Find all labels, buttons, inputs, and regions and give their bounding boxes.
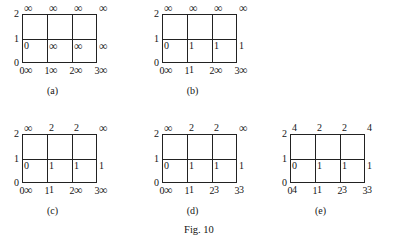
node-value: 1 bbox=[189, 41, 194, 51]
y-tick-label: 1 bbox=[147, 154, 159, 164]
y-tick-label: 1 bbox=[7, 34, 19, 44]
y-tick-label: 0 bbox=[147, 178, 159, 188]
node-value: 0 bbox=[164, 161, 169, 171]
x-tick-label: 2 bbox=[334, 186, 346, 196]
node-value: 1 bbox=[214, 161, 219, 171]
grid-d: ∞22∞0111∞133 bbox=[162, 134, 237, 183]
y-tick-label: 1 bbox=[7, 154, 19, 164]
x-tick-label: 1 bbox=[309, 186, 321, 196]
node-value: 2 bbox=[342, 123, 347, 133]
node-value: ∞ bbox=[24, 3, 32, 13]
panel-caption-b: (b) bbox=[140, 85, 245, 96]
panel-caption-e: (e) bbox=[268, 205, 373, 216]
grid-b: ∞∞∞∞0111∞1∞∞ bbox=[162, 14, 237, 63]
node-value: 1 bbox=[99, 161, 104, 171]
node-value: ∞ bbox=[239, 123, 247, 133]
panel-caption-a: (a) bbox=[0, 85, 105, 96]
node-value: 0 bbox=[164, 41, 169, 51]
node-value: 4 bbox=[367, 123, 372, 133]
figure-caption: Fig. 10 bbox=[0, 224, 398, 235]
grid-hline bbox=[162, 39, 237, 40]
x-tick-label: 2 bbox=[66, 186, 78, 196]
grid-hline bbox=[22, 39, 97, 40]
node-value: 1 bbox=[367, 161, 372, 171]
node-value: 1 bbox=[49, 161, 54, 171]
node-value: ∞ bbox=[239, 3, 247, 13]
panel-a: ∞∞∞∞0∞∞∞∞∞∞∞0123210(a) bbox=[0, 2, 130, 117]
node-value: 2 bbox=[317, 123, 322, 133]
grid-a: ∞∞∞∞0∞∞∞∞∞∞∞ bbox=[22, 14, 97, 63]
grid-c: ∞22∞0111∞1∞∞ bbox=[22, 134, 97, 183]
x-tick-label: 1 bbox=[41, 66, 53, 76]
y-tick-label: 2 bbox=[275, 129, 287, 139]
node-value: 1 bbox=[317, 161, 322, 171]
x-tick-label: 3 bbox=[91, 66, 103, 76]
x-tick-label: 1 bbox=[41, 186, 53, 196]
y-tick-label: 2 bbox=[7, 129, 19, 139]
grid-hline bbox=[290, 159, 365, 160]
x-tick-label: 3 bbox=[359, 186, 371, 196]
node-value: ∞ bbox=[99, 3, 107, 13]
x-tick-label: 3 bbox=[231, 66, 243, 76]
panel-caption-c: (c) bbox=[0, 205, 105, 216]
x-tick-label: 1 bbox=[181, 186, 193, 196]
node-value: 2 bbox=[49, 123, 54, 133]
node-value: ∞ bbox=[164, 3, 172, 13]
figure-10: ∞∞∞∞0∞∞∞∞∞∞∞0123210(a)∞∞∞∞0111∞1∞∞012321… bbox=[0, 0, 398, 241]
node-value: 2 bbox=[74, 123, 79, 133]
node-value: 0 bbox=[24, 41, 29, 51]
panel-e: 4224011141330123210(e) bbox=[268, 122, 398, 237]
x-tick-label: 1 bbox=[181, 66, 193, 76]
node-value: ∞ bbox=[24, 123, 32, 133]
y-tick-label: 2 bbox=[147, 9, 159, 19]
node-value: 1 bbox=[189, 161, 194, 171]
node-value: 0 bbox=[292, 161, 297, 171]
node-value: 4 bbox=[292, 123, 297, 133]
node-value: ∞ bbox=[164, 123, 172, 133]
node-value: ∞ bbox=[74, 3, 82, 13]
panel-d: ∞22∞0111∞1330123210(d) bbox=[140, 122, 270, 237]
node-value: 2 bbox=[214, 123, 219, 133]
node-value: ∞ bbox=[99, 41, 107, 51]
x-tick-label: 2 bbox=[206, 66, 218, 76]
y-tick-label: 1 bbox=[275, 154, 287, 164]
panel-caption-d: (d) bbox=[140, 205, 245, 216]
y-tick-label: 0 bbox=[147, 58, 159, 68]
node-value: 1 bbox=[342, 161, 347, 171]
x-tick-label: 3 bbox=[91, 186, 103, 196]
node-value: 2 bbox=[189, 123, 194, 133]
y-tick-label: 0 bbox=[275, 178, 287, 188]
grid-e: 422401114133 bbox=[290, 134, 365, 183]
node-value: ∞ bbox=[189, 3, 197, 13]
node-value: 0 bbox=[24, 161, 29, 171]
node-value: ∞ bbox=[214, 3, 222, 13]
y-tick-label: 2 bbox=[7, 9, 19, 19]
y-tick-label: 0 bbox=[7, 178, 19, 188]
x-tick-label: 2 bbox=[206, 186, 218, 196]
y-tick-label: 0 bbox=[7, 58, 19, 68]
node-value: 1 bbox=[239, 161, 244, 171]
node-value: ∞ bbox=[74, 41, 82, 51]
panel-c: ∞22∞0111∞1∞∞0123210(c) bbox=[0, 122, 130, 237]
y-tick-label: 1 bbox=[147, 34, 159, 44]
grid-hline bbox=[162, 159, 237, 160]
node-value: ∞ bbox=[49, 3, 57, 13]
node-value: ∞ bbox=[99, 123, 107, 133]
y-tick-label: 2 bbox=[147, 129, 159, 139]
grid-hline bbox=[22, 159, 97, 160]
node-value: ∞ bbox=[49, 41, 57, 51]
node-value: 1 bbox=[214, 41, 219, 51]
x-tick-label: 3 bbox=[231, 186, 243, 196]
node-value: 1 bbox=[239, 41, 244, 51]
panel-b: ∞∞∞∞0111∞1∞∞0123210(b) bbox=[140, 2, 270, 117]
x-tick-label: 2 bbox=[66, 66, 78, 76]
node-value: 1 bbox=[74, 161, 79, 171]
